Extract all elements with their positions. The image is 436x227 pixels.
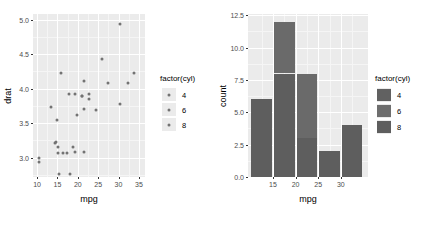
scatter-gridline-v — [37, 14, 38, 177]
scatter-x-tick-mark — [78, 177, 79, 179]
scatter-legend-label-8: 8 — [182, 120, 186, 129]
scatter-y-tick-label: 3.0 — [7, 154, 29, 161]
scatter-minor-gridline-v — [108, 14, 109, 177]
scatter-y-tick-label: 5.0 — [7, 16, 29, 23]
scatter-gridline-h — [33, 20, 145, 21]
scatter-point — [49, 106, 52, 109]
scatter-y-tick-mark — [31, 89, 33, 90]
histogram-gridline-h — [248, 48, 368, 49]
scatter-point — [55, 140, 58, 143]
scatter-y-tick-mark — [31, 123, 33, 124]
histogram-y-tick-label: 12.5 — [222, 12, 244, 19]
histogram-y-tick-mark — [246, 112, 248, 113]
histogram-legend-swatch-4 — [377, 89, 391, 101]
scatter-gridline-h — [33, 89, 145, 90]
scatter-x-tick-label: 25 — [88, 181, 108, 188]
histogram-y-tick-label: 5.0 — [222, 109, 244, 116]
scatter-minor-gridline-v — [47, 14, 48, 177]
scatter-y-tick-label: 3.5 — [7, 120, 29, 127]
scatter-gridline-v — [139, 14, 140, 177]
histogram-bar-segment — [297, 74, 318, 139]
scatter-x-tick-label: 30 — [109, 181, 129, 188]
scatter-point — [88, 97, 91, 100]
scatter-x-axis-title: mpg — [80, 194, 98, 204]
scatter-gridline-v — [119, 14, 120, 177]
scatter-point — [82, 79, 85, 82]
scatter-x-tick-label: 15 — [47, 181, 67, 188]
histogram-x-tick-label: 30 — [331, 181, 351, 188]
scatter-point — [67, 93, 70, 96]
scatter-point — [58, 173, 61, 176]
scatter-x-tick-mark — [37, 177, 38, 179]
scatter-minor-gridline-v — [129, 14, 130, 177]
scatter-point — [56, 119, 59, 122]
histogram-y-tick-label: 10.0 — [222, 44, 244, 51]
histogram-bar-segment — [319, 151, 340, 177]
scatter-point — [73, 93, 76, 96]
scatter-point — [71, 146, 74, 149]
histogram-plot: 0.02.55.07.510.012.515202530 mpg count f… — [218, 0, 436, 227]
scatter-point — [119, 103, 122, 106]
histogram-y-tick-label: 2.5 — [222, 141, 244, 148]
scatter-point — [73, 151, 76, 154]
histogram-bar-segment — [251, 99, 272, 177]
histogram-bar-segment — [274, 74, 295, 177]
scatter-panel — [33, 14, 145, 177]
scatter-point — [37, 161, 40, 164]
scatter-legend-label-6: 6 — [182, 105, 186, 114]
histogram-y-tick-mark — [246, 48, 248, 49]
scatter-point — [106, 82, 109, 85]
histogram-y-tick-mark — [246, 145, 248, 146]
histogram-y-axis-title: count — [218, 84, 228, 106]
scatter-point — [80, 94, 83, 97]
scatter-y-tick-mark — [31, 158, 33, 159]
scatter-gridline-h — [33, 158, 145, 159]
scatter-point — [59, 72, 62, 75]
histogram-x-tick-mark — [318, 177, 319, 179]
histogram-x-tick-mark — [273, 177, 274, 179]
scatter-plot: 3.03.54.04.55.0101520253035 mpg drat fac… — [0, 0, 218, 227]
scatter-x-tick-mark — [119, 177, 120, 179]
scatter-point — [101, 57, 104, 60]
scatter-legend-title: factor(cyl) — [160, 74, 195, 83]
scatter-x-tick-mark — [139, 177, 140, 179]
scatter-point — [94, 109, 97, 112]
histogram-bar-segment — [342, 125, 363, 177]
histogram-legend-swatch-8 — [377, 121, 391, 133]
scatter-point — [65, 151, 68, 154]
scatter-point — [57, 146, 60, 149]
histogram-legend-label-4: 4 — [397, 91, 401, 100]
scatter-x-tick-label: 20 — [68, 181, 88, 188]
histogram-legend-title: factor(cyl) — [375, 74, 410, 83]
histogram-bar-segment — [297, 138, 318, 177]
scatter-y-tick-mark — [31, 54, 33, 55]
scatter-x-tick-label: 10 — [27, 181, 47, 188]
histogram-legend-label-8: 8 — [397, 123, 401, 132]
scatter-point — [82, 151, 85, 154]
scatter-legend-dot-4 — [168, 93, 171, 96]
scatter-point — [57, 151, 60, 154]
scatter-gridline-h — [33, 54, 145, 55]
histogram-y-tick-mark — [246, 80, 248, 81]
scatter-gridline-v — [98, 14, 99, 177]
scatter-y-tick-mark — [31, 20, 33, 21]
scatter-gridline-h — [33, 123, 145, 124]
histogram-gridline-h — [248, 15, 368, 16]
scatter-point — [127, 82, 130, 85]
scatter-point — [133, 72, 136, 75]
scatter-y-axis-title: drat — [3, 88, 13, 104]
scatter-legend-dot-6 — [168, 108, 171, 111]
histogram-x-tick-label: 25 — [308, 181, 328, 188]
scatter-point — [69, 173, 72, 176]
histogram-x-tick-label: 15 — [263, 181, 283, 188]
scatter-y-tick-label: 4.5 — [7, 51, 29, 58]
histogram-bar-segment — [274, 22, 295, 74]
scatter-x-tick-mark — [57, 177, 58, 179]
scatter-point — [62, 151, 65, 154]
histogram-x-tick-mark — [341, 177, 342, 179]
histogram-y-tick-mark — [246, 15, 248, 16]
histogram-minor-gridline-h — [248, 64, 368, 65]
scatter-x-tick-label: 35 — [129, 181, 149, 188]
scatter-x-tick-mark — [98, 177, 99, 179]
scatter-point — [37, 156, 40, 159]
